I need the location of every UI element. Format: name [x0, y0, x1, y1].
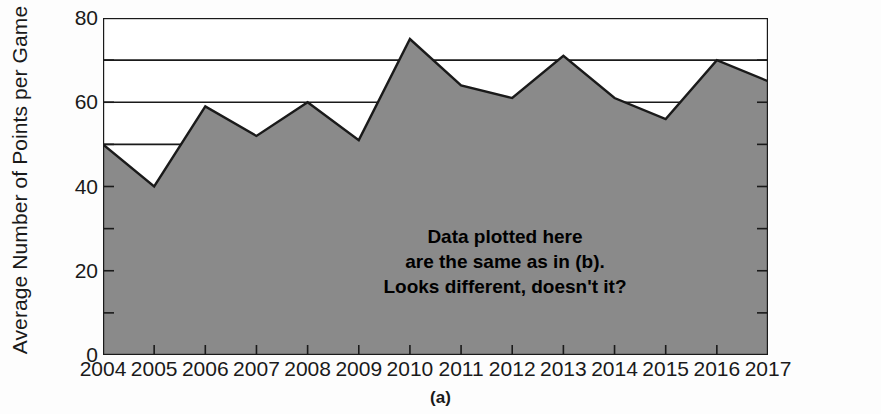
y-axis-tick-label: 80: [50, 6, 98, 30]
y-axis-tick-label: 60: [50, 90, 98, 114]
x-axis-tick-label: 2013: [540, 357, 587, 381]
figure-panel-a: Average Number of Points per Game 020406…: [0, 0, 881, 414]
x-axis-tick-label: 2007: [233, 357, 280, 381]
x-axis-tick-label: 2004: [80, 357, 127, 381]
y-axis-tick-label: 20: [50, 259, 98, 283]
y-axis-tick-labels: 020406080: [42, 0, 98, 414]
figure-caption: (a): [0, 388, 881, 408]
y-axis-title: Average Number of Points per Game: [0, 0, 40, 360]
x-axis-tick-label: 2010: [387, 357, 434, 381]
x-axis-tick-label: 2014: [591, 357, 638, 381]
y-axis-tick-label: 40: [50, 175, 98, 199]
x-axis-tick-label: 2009: [335, 357, 382, 381]
x-axis-tick-label: 2011: [438, 357, 483, 381]
y-axis-title-text: Average Number of Points per Game: [8, 6, 32, 354]
area-chart-svg: [103, 18, 768, 355]
x-axis-tick-label: 2006: [182, 357, 229, 381]
x-axis-tick-label: 2017: [745, 357, 792, 381]
x-axis-tick-label: 2005: [131, 357, 178, 381]
x-axis-tick-labels: 2004200520062007200820092010201120122013…: [103, 357, 768, 387]
x-axis-tick-label: 2012: [489, 357, 536, 381]
x-axis-tick-label: 2015: [642, 357, 689, 381]
x-axis-tick-label: 2016: [693, 357, 740, 381]
x-axis-tick-label: 2008: [284, 357, 331, 381]
plot-area: [103, 18, 768, 355]
